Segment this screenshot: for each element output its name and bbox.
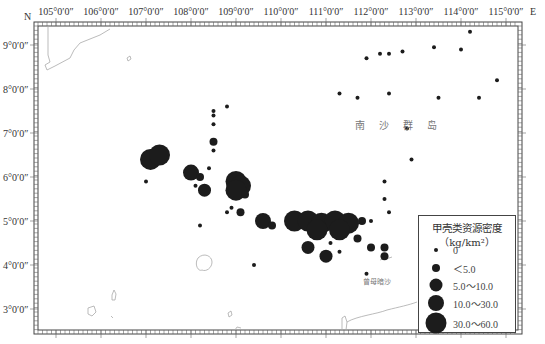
legend-symbol-circle-icon	[426, 313, 447, 334]
legend-symbol-circle-icon	[430, 279, 443, 292]
station-dot	[381, 252, 389, 260]
latitude-label: 3°0′0″	[3, 304, 28, 315]
longitude-label: 111°0′0″	[309, 6, 344, 17]
station-dot	[252, 263, 256, 267]
legend-symbol-circle-icon	[428, 295, 444, 311]
station-dot	[383, 197, 387, 201]
legend-title: 甲壳类资源密度	[419, 220, 515, 235]
station-dot	[387, 210, 391, 214]
station-dot	[196, 173, 204, 181]
station-dot	[354, 235, 362, 243]
legend-class-label: 10.0～30.0	[453, 296, 498, 311]
legend-unit: （kg/km²）	[419, 234, 515, 249]
latitude-label: 5°0′0″	[3, 216, 28, 227]
legend-class-label: 5.0～10.0	[453, 278, 493, 293]
station-dot	[495, 78, 499, 82]
station-dot	[338, 250, 342, 254]
legend: 甲壳类资源密度 （kg/km²） 0＜5.05.0～10.010.0～30.03…	[418, 215, 516, 333]
nansha-islands-label: 南沙群岛	[355, 117, 451, 132]
station-dot	[365, 56, 369, 60]
station-dot	[198, 184, 211, 197]
zengmu-ansha-label: 曾母暗沙	[363, 276, 391, 286]
longitude-label: 105°0′0″	[38, 6, 73, 17]
longitude-label: 114°0′0″	[444, 6, 479, 17]
station-dot	[194, 184, 198, 188]
station-dot	[387, 91, 391, 95]
station-dot	[437, 96, 441, 100]
station-dot	[459, 47, 463, 51]
station-dot	[381, 243, 389, 251]
station-dot	[378, 52, 382, 56]
longitude-label: 112°0′0″	[354, 6, 389, 17]
station-dot	[338, 91, 342, 95]
station-dot	[387, 52, 391, 56]
station-dot	[212, 113, 216, 117]
latitude-label: 6°0′0″	[3, 172, 28, 183]
longitude-label: 113°0′0″	[399, 6, 434, 17]
station-dot	[241, 191, 249, 199]
station-dot	[149, 145, 170, 166]
latitude-label: 8°0′0″	[3, 84, 28, 95]
station-dot	[144, 179, 148, 183]
longitude-label: 108°0′0″	[173, 6, 208, 17]
legend-class-label: 30.0～60.0	[453, 316, 498, 331]
station-dot	[268, 221, 276, 229]
station-dot	[432, 45, 436, 49]
station-dot	[210, 138, 218, 146]
station-dot	[230, 206, 234, 210]
station-dot	[401, 50, 405, 54]
station-dot	[410, 157, 414, 161]
longitude-label: 115°0′0″	[489, 6, 524, 17]
longitude-label: 109°0′0″	[218, 6, 253, 17]
station-dot	[358, 217, 366, 225]
station-dot	[207, 166, 211, 170]
east-label: E	[530, 6, 536, 17]
longitude-label: 107°0′0″	[128, 6, 163, 17]
station-dot	[329, 219, 350, 240]
station-dot	[307, 219, 328, 240]
latitude-label: 7°0′0″	[3, 128, 28, 139]
longitude-label: 106°0′0″	[83, 6, 118, 17]
density-map: N E 105°0′0″106°0′0″107°0′0″108°0′0″109°…	[0, 0, 545, 344]
station-dot	[383, 179, 387, 183]
latitude-label: 4°0′0″	[3, 260, 28, 271]
legend-symbol-circle-icon	[434, 248, 438, 252]
station-dot	[329, 241, 333, 245]
station-dot	[212, 109, 216, 113]
station-dot	[302, 241, 315, 254]
station-dot	[369, 219, 373, 223]
legend-class-label: 0	[453, 245, 458, 256]
north-label: N	[24, 11, 31, 22]
station-dot	[225, 105, 229, 109]
legend-class-label: ＜5.0	[453, 261, 476, 276]
legend-symbol-circle-icon	[432, 264, 440, 272]
station-dot	[320, 250, 333, 263]
station-dot	[477, 96, 481, 100]
station-dot	[198, 223, 202, 227]
station-dot	[212, 122, 216, 126]
station-dot	[225, 210, 229, 214]
station-dot	[356, 96, 360, 100]
latitude-label: 9°0′0″	[3, 40, 28, 51]
longitude-label: 110°0′0″	[264, 6, 299, 17]
station-dot	[237, 208, 245, 216]
station-dot	[468, 30, 472, 34]
station-dot	[367, 243, 375, 251]
station-dot	[212, 149, 216, 153]
